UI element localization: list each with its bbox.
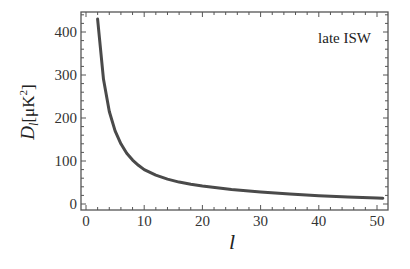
- y-axis-title: Dl[μK2]: [17, 84, 41, 140]
- chart: 01020304050 0100200300400 late ISW l Dl[…: [0, 0, 410, 269]
- y-tick-label: 300: [55, 67, 78, 83]
- y-tick-labels: 0100200300400: [55, 24, 78, 212]
- x-tick-label: 0: [82, 213, 90, 229]
- x-tick-label: 50: [370, 213, 385, 229]
- x-tick-label: 30: [253, 213, 268, 229]
- x-tick-label: 20: [195, 213, 210, 229]
- x-tick-labels: 01020304050: [82, 213, 384, 229]
- x-tick-label: 40: [311, 213, 326, 229]
- svg-text:Dl[μK2]: Dl[μK2]: [17, 84, 41, 140]
- y-tick-label: 0: [70, 196, 78, 212]
- y-tick-label: 200: [55, 110, 78, 126]
- x-axis-title: l: [229, 229, 235, 254]
- y-tick-label: 400: [55, 24, 78, 40]
- x-tick-label: 10: [137, 213, 152, 229]
- annotation-label: late ISW: [318, 30, 372, 46]
- y-tick-label: 100: [55, 153, 78, 169]
